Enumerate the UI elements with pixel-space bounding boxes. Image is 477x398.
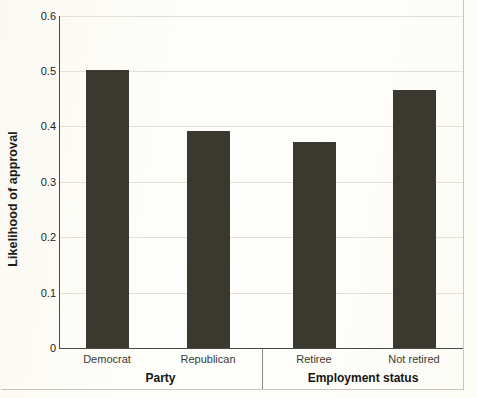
y-axis-line [59,16,60,349]
bar-retiree [293,142,336,348]
y-axis-ticks: 0.6 0.5 0.4 0.3 0.2 0.1 0 [0,0,56,398]
bar-not-retired [393,90,436,348]
group-label-employment-status: Employment status [263,371,463,385]
x-tick-label-not-retired: Not retired [359,353,469,365]
x-tick-label-retiree: Retiree [259,353,369,365]
bar-chart-figure: Likelihood of approval 0.6 0.5 0.4 0.3 0… [0,0,477,398]
y-tick-label-0.1: 0.1 [4,287,56,299]
bar-republican [187,131,230,348]
x-tick-label-democrat: Democrat [52,353,162,365]
y-tick-label-0.6: 0.6 [4,10,56,22]
group-label-party: Party [59,371,262,385]
y-tick-label-0: 0 [4,342,56,354]
bar-democrat [86,70,129,348]
x-tick-label-republican: Republican [153,353,263,365]
x-axis-line [59,348,463,349]
y-tick-label-0.5: 0.5 [4,65,56,77]
gridline-0.6 [60,16,463,17]
y-tick-label-0.2: 0.2 [4,231,56,243]
y-tick-label-0.3: 0.3 [4,176,56,188]
y-tick-label-0.4: 0.4 [4,120,56,132]
